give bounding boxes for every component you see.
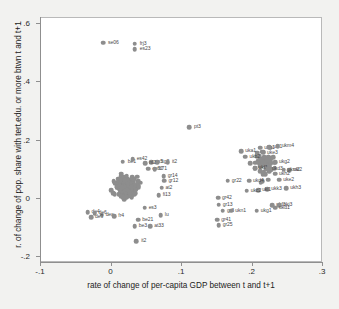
data-point-label: fi13 <box>163 193 171 198</box>
data-point-label: ukd4 <box>253 178 264 183</box>
data-point <box>273 160 278 165</box>
y-tick-mark <box>36 140 40 141</box>
data-point <box>215 218 220 223</box>
data-point-label: ukg2 <box>279 160 290 165</box>
data-point <box>216 195 221 200</box>
x-tick-label: .1 <box>178 267 185 276</box>
data-point <box>266 166 271 171</box>
data-point-label: gr22 <box>232 178 242 183</box>
data-point <box>252 166 257 171</box>
data-point-label: pt3 <box>194 125 201 130</box>
y-tick-mark <box>36 23 40 24</box>
data-point <box>134 239 139 244</box>
x-tick-mark <box>111 262 112 266</box>
data-point <box>120 159 125 164</box>
data-point-label: ukd1 <box>279 205 290 210</box>
data-point-label: gr42 <box>222 195 232 200</box>
data-point-label: lu <box>165 213 169 218</box>
data-point-label: uke2 <box>283 177 294 182</box>
data-point <box>159 185 164 190</box>
y-tick-label: 0 <box>26 193 30 202</box>
x-tick-label: 0 <box>108 267 112 276</box>
data-point-label: fr71 <box>159 167 167 172</box>
data-point-label: gr12 <box>168 178 178 183</box>
data-point <box>245 188 250 193</box>
data-point <box>261 150 266 155</box>
y-axis-line <box>40 17 41 262</box>
data-point <box>276 144 281 149</box>
data-point <box>130 157 135 162</box>
data-point-label: de9 <box>95 214 103 219</box>
x-tick-mark <box>40 262 41 266</box>
data-point-label: at33 <box>154 224 164 229</box>
data-point-label: es23 <box>140 46 151 51</box>
data-point <box>254 208 259 213</box>
data-point <box>243 155 248 160</box>
x-axis-title: rate of change of per-capita GDP between… <box>40 281 322 290</box>
x-tick-label: .3 <box>319 267 326 276</box>
data-point <box>112 214 117 219</box>
scatter-plot-figure: se06frj3es23pt3it2be1es42es5itg2it2nl2es… <box>0 0 339 309</box>
data-point <box>239 149 244 154</box>
data-point <box>121 195 126 200</box>
x-tick-mark <box>252 262 253 266</box>
data-point <box>101 40 106 45</box>
data-point <box>166 160 171 165</box>
x-tick-label: -.1 <box>35 267 44 276</box>
data-point-label: uki1 <box>262 188 271 193</box>
data-point-label: ukk3 <box>271 186 281 191</box>
data-point-label: at2 <box>166 185 173 190</box>
data-point <box>148 224 153 229</box>
x-tick-mark <box>181 262 182 266</box>
y-axis-title: r. of change of pop. share with tert.edu… <box>14 10 23 260</box>
data-point-label: it2 <box>172 160 177 165</box>
data-point-label: ukn1 <box>235 208 246 213</box>
data-point <box>162 178 167 183</box>
data-point <box>216 223 221 228</box>
data-point <box>89 215 94 220</box>
data-point-label: uke3 <box>267 150 278 155</box>
data-point <box>273 171 278 176</box>
data-point-label: be3 <box>139 223 147 228</box>
data-point <box>132 41 137 46</box>
y-tick-mark <box>36 81 40 82</box>
data-point <box>247 178 252 183</box>
data-point <box>143 161 148 166</box>
data-point <box>229 208 234 213</box>
data-point <box>277 177 282 182</box>
data-point <box>221 208 226 213</box>
x-tick-label: .2 <box>248 267 255 276</box>
data-point <box>120 185 125 190</box>
plot-area: se06frj3es23pt3it2be1es42es5itg2it2nl2es… <box>40 17 322 262</box>
y-tick-mark <box>36 198 40 199</box>
data-point <box>258 145 263 150</box>
data-point <box>132 47 137 52</box>
data-point-label: it2 <box>141 239 146 244</box>
data-point-label: fr4 <box>118 213 124 218</box>
data-point <box>111 191 116 196</box>
data-point <box>226 178 231 183</box>
data-point-label: ukb2 <box>249 154 260 159</box>
data-point <box>142 205 147 210</box>
data-point <box>131 177 136 182</box>
data-point <box>156 193 161 198</box>
data-point <box>132 224 137 229</box>
data-point-label: gr25 <box>223 223 233 228</box>
data-point <box>265 158 270 163</box>
data-point <box>216 202 221 207</box>
data-point-label: es3 <box>149 205 157 210</box>
data-points-layer: se06frj3es23pt3it2be1es42es5itg2it2nl2es… <box>41 18 321 261</box>
data-point <box>118 177 123 182</box>
y-tick-label: .6 <box>23 18 30 27</box>
data-point-label: ukg1 <box>261 208 272 213</box>
data-point <box>129 185 134 190</box>
data-point-label: se06 <box>108 40 119 45</box>
y-tick-label: .2 <box>23 135 30 144</box>
data-point <box>159 213 164 218</box>
data-point <box>125 181 130 186</box>
y-tick-label: .4 <box>23 77 30 86</box>
data-point <box>187 125 192 130</box>
data-point <box>119 172 124 177</box>
data-point <box>146 166 151 171</box>
data-point <box>284 186 289 191</box>
